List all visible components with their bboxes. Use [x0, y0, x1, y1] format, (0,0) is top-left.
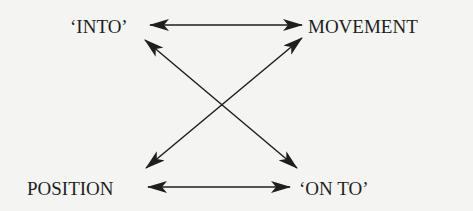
arrows [0, 0, 473, 211]
arrow-movement-position [146, 38, 302, 168]
arrow-into-onto [145, 40, 297, 168]
